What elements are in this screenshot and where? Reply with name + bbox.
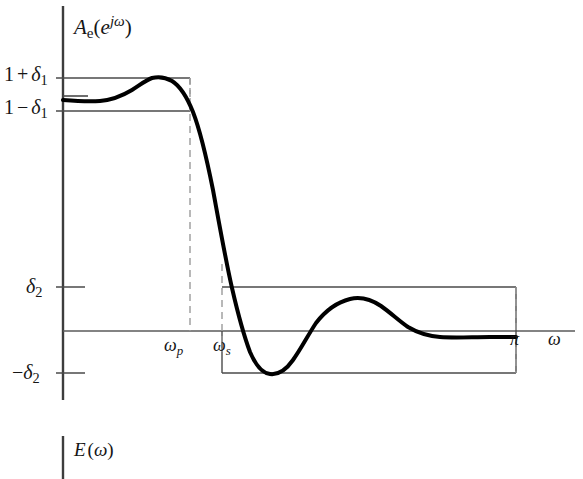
delta-glyph: δ [23,361,32,383]
amplitude-axis-label-e: e [101,15,110,39]
omega-glyph: ω [213,335,226,355]
amplitude-axis-label-sup-omega: ω [114,13,125,29]
subscript-1: 1 [41,72,48,88]
ytick-label-delta2: δ2 [26,276,43,299]
subscript-p: p [177,343,183,358]
subscript-1: 1 [41,105,48,121]
amplitude-axis-label-A: A [74,15,87,39]
amplitude-axis-label-sub-e: e [87,25,94,41]
one-glyph: 1 [4,96,14,118]
plus-glyph: + [14,63,31,85]
amplitude-response-curve [63,77,516,374]
xtick-label-omega-s: ωs [213,336,231,358]
error-axis-label-close-paren: ) [107,439,113,460]
ytick-label-one-minus-delta1: 1−δ1 [4,97,48,120]
ytick-label-negative-delta2: −δ2 [12,362,40,385]
delta-glyph: δ [26,275,35,297]
amplitude-axis-label: Ae(ejω) [74,14,132,41]
xtick-label-omega-p: ωp [164,336,183,358]
amplitude-response-plot [0,0,583,479]
frequency-axis-label: ω [548,330,561,348]
subscript-2: 2 [33,370,40,386]
one-glyph: 1 [4,63,14,85]
delta-glyph: δ [31,63,40,85]
minus-glyph: − [12,361,23,383]
xtick-label-pi: π [510,330,519,348]
error-axis-label-omega: ω [94,439,107,460]
ytick-label-one-plus-delta1: 1+δ1 [4,64,48,87]
subscript-2: 2 [35,284,42,300]
delta-glyph: δ [31,96,40,118]
error-axis-label-E: E [74,439,86,460]
omega-glyph: ω [164,335,177,355]
filter-approximation-figure: Ae(ejω) 1+δ1 1−δ1 δ2 −δ2 ωp ωs π ω E(ω) [0,0,583,479]
error-axis-label: E(ω) [74,440,114,459]
error-axis-label-open-paren: ( [86,439,94,460]
subscript-s: s [226,343,231,358]
minus-glyph: − [14,96,31,118]
amplitude-axis-label-close-paren: ) [125,15,132,39]
amplitude-axis-label-open-paren: ( [94,15,101,39]
